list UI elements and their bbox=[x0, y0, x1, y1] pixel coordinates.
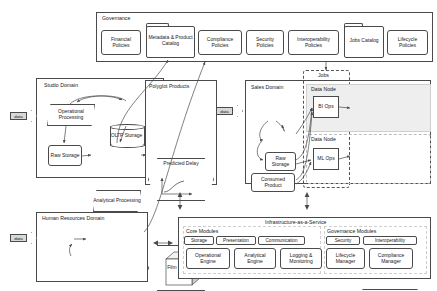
core-chip-presentation[interactable]: Presentation bbox=[216, 236, 256, 245]
line-chart-icon bbox=[148, 158, 214, 201]
governance-item-security-policies[interactable]: Security Policies bbox=[246, 30, 284, 55]
polyglot-product-predicted-delay[interactable]: Predicted Delay bbox=[148, 158, 214, 201]
sales-raw-storage[interactable]: Raw Storage bbox=[265, 152, 296, 171]
core-chip-communication[interactable]: Communication bbox=[258, 236, 305, 245]
governance-chip-interoperability[interactable]: Interoperability bbox=[363, 236, 417, 245]
chip-label: Security bbox=[335, 238, 352, 243]
governance-modules-title: Governance Modules bbox=[327, 228, 376, 234]
node-label: Analytical Processing bbox=[93, 198, 141, 204]
governance-item-label: Compliance Policies bbox=[200, 37, 240, 48]
module-label: Logging & Monitoring bbox=[282, 253, 320, 264]
governance-item-lifecycle-policies[interactable]: Lifecycle Policies bbox=[387, 30, 428, 55]
governance-module-compliance-manager[interactable]: Compliance Manager bbox=[369, 248, 413, 269]
node-label: Raw Storage bbox=[267, 156, 294, 167]
governance-title: Governance bbox=[102, 15, 130, 21]
core-module-analytical-engine[interactable]: Analytical Engine bbox=[234, 248, 276, 269]
studio-operational-processing[interactable]: Operational Processing bbox=[47, 104, 95, 126]
studio-domain-title: Studio Domain bbox=[44, 82, 78, 88]
data-input-label: data bbox=[216, 107, 233, 115]
module-label: Operational Engine bbox=[188, 253, 228, 264]
chip-label: Storage bbox=[191, 238, 207, 243]
core-module-operational-engine[interactable]: Operational Engine bbox=[186, 248, 230, 269]
module-label: Compliance Manager bbox=[371, 253, 411, 264]
governance-item-label: Jobs Catalog bbox=[349, 38, 378, 44]
module-label: Lifecycle Manager bbox=[328, 253, 363, 264]
jobs-title: Jobs bbox=[318, 72, 329, 78]
governance-item-compliance-policies[interactable]: Compliance Policies bbox=[198, 30, 242, 55]
governance-item-label: Interoperability Policies bbox=[290, 37, 337, 48]
data-input-label: data bbox=[10, 112, 27, 120]
sales-domain-data-input: data bbox=[216, 105, 242, 115]
core-module-logging-monitoring[interactable]: Logging & Monitoring bbox=[280, 248, 322, 269]
governance-item-jobs-catalog[interactable]: Jobs Catalog bbox=[344, 26, 382, 56]
hr-domain-panel bbox=[36, 212, 148, 282]
studio-oltp-storage[interactable]: OLTP Storage bbox=[110, 124, 143, 148]
hr-domain-title: Human Resources Domain bbox=[42, 215, 104, 221]
governance-item-label: Metadata & Product Catalog bbox=[147, 35, 194, 46]
node-label: Consumed Product bbox=[253, 177, 293, 188]
governance-item-metadata-product-catalog[interactable]: Metadata & Product Catalog bbox=[146, 26, 193, 56]
module-label: Analytical Engine bbox=[236, 253, 274, 264]
governance-item-financial-policies[interactable]: Financial Policies bbox=[101, 30, 141, 55]
node-label: Raw Storage bbox=[51, 153, 80, 159]
node-label: OLTP Storage bbox=[111, 133, 143, 139]
hr-domain-data-input: data bbox=[10, 232, 36, 242]
governance-chip-security[interactable]: Security bbox=[326, 236, 360, 245]
core-chip-storage[interactable]: Storage bbox=[184, 236, 214, 245]
bi-ops-node[interactable]: BI Ops bbox=[313, 96, 339, 118]
sales-domain-title: Sales Domain bbox=[251, 84, 283, 90]
sales-consumed-product[interactable]: Consumed Product bbox=[251, 173, 295, 192]
studio-analytical-processing[interactable]: Analytical Processing bbox=[93, 190, 141, 212]
chip-label: Communication bbox=[266, 238, 298, 243]
iaas-title: Infrastructure-as-a-Service bbox=[265, 219, 326, 225]
data-node-title: Data Node bbox=[311, 136, 336, 142]
governance-item-label: Security Policies bbox=[248, 37, 282, 48]
chip-label: Interoperability bbox=[375, 238, 405, 243]
node-label: ML Ops bbox=[317, 156, 334, 162]
ml-ops-node[interactable]: ML Ops bbox=[313, 148, 339, 170]
polyglot-products-title: Polyglot Products bbox=[149, 83, 189, 89]
governance-item-label: Lifecycle Policies bbox=[389, 37, 426, 48]
governance-module-lifecycle-manager[interactable]: Lifecycle Manager bbox=[326, 248, 365, 269]
core-modules-title: Core Modules bbox=[186, 228, 218, 234]
studio-domain-data-input: data bbox=[10, 110, 36, 120]
node-label: Operational Processing bbox=[47, 109, 95, 120]
chip-label: Presentation bbox=[223, 238, 249, 243]
data-node-title: Data Node bbox=[311, 86, 336, 92]
studio-raw-storage[interactable]: Raw Storage bbox=[48, 145, 82, 166]
node-label: BI Ops bbox=[318, 104, 333, 110]
governance-item-label: Financial Policies bbox=[103, 37, 139, 48]
governance-item-interoperability-policies[interactable]: Interoperability Policies bbox=[288, 30, 339, 55]
architecture-diagram: Governance Financial Policies Metadata &… bbox=[0, 0, 437, 291]
data-input-label: data bbox=[10, 234, 27, 242]
